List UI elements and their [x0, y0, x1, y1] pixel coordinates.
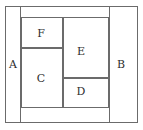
region-label-B: B — [114, 59, 128, 70]
region-label-E: E — [74, 46, 88, 57]
region-label-F: F — [34, 28, 48, 39]
diagram-canvas: A B F C E D — [0, 0, 143, 130]
region-label-A: A — [6, 59, 20, 70]
region-label-D: D — [74, 86, 88, 97]
region-label-C: C — [34, 73, 48, 84]
